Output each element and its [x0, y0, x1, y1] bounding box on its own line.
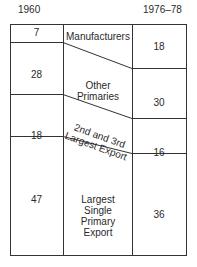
label-largest-line-3: Primary: [64, 216, 132, 227]
value-1960-largest: 47: [10, 194, 63, 205]
value-1976-other-primaries: 30: [132, 97, 186, 108]
value-1960-manufacturers: 7: [10, 27, 63, 38]
value-1976-second-third: 16: [132, 147, 186, 158]
label-other-primaries-line-2: Primaries: [64, 91, 132, 102]
label-largest-line-1: Largest: [64, 194, 132, 205]
label-other-primaries: Other Primaries: [64, 80, 132, 102]
label-largest-single-primary-export: Largest Single Primary Export: [64, 194, 132, 238]
value-1960-second-third: 18: [10, 130, 63, 141]
value-1976-largest: 36: [132, 209, 186, 220]
label-largest-line-2: Single: [64, 205, 132, 216]
value-1960-other-primaries: 28: [10, 69, 63, 80]
label-other-primaries-line-1: Other: [64, 80, 132, 91]
label-largest-line-4: Export: [64, 227, 132, 238]
value-1976-manufacturers: 18: [132, 41, 186, 52]
label-manufacturers: Manufacturers: [64, 31, 132, 42]
